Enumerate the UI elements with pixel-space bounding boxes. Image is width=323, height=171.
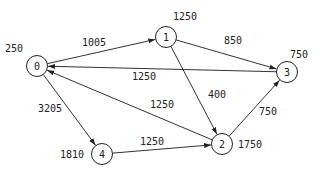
node-id-label: 1 [163, 32, 169, 43]
edge-weight-label: 850 [224, 35, 242, 46]
node-value-label: 1250 [173, 11, 197, 22]
edge-3-to-0 [48, 66, 277, 71]
node-id-label: 3 [284, 67, 290, 78]
edge-weight-label: 1250 [150, 99, 174, 110]
node-id-label: 0 [34, 61, 40, 72]
edge-weight-label: 400 [208, 89, 226, 100]
node-id-label: 4 [99, 149, 105, 160]
graph-node-3: 3 [277, 62, 298, 83]
graph-node-4: 4 [92, 144, 113, 165]
node-value-label: 250 [5, 43, 23, 54]
edge-weight-label: 1250 [140, 136, 164, 147]
edge-weight-label: 1005 [82, 37, 106, 48]
edge-labels-layer: 10058501250400125032051250750 [38, 35, 277, 147]
node-value-label: 1750 [238, 139, 262, 150]
edge-2-to-0 [47, 70, 212, 140]
node-value-label: 1810 [60, 149, 84, 160]
edge-weight-label: 1250 [132, 71, 156, 82]
graph-diagram: 10058501250400125032051250750 01234 2501… [0, 0, 323, 171]
edge-weight-label: 3205 [38, 103, 62, 114]
graph-node-0: 0 [27, 56, 48, 77]
graph-node-1: 1 [156, 27, 177, 48]
node-id-label: 2 [219, 139, 225, 150]
node-value-label: 750 [290, 49, 308, 60]
graph-node-2: 2 [212, 134, 233, 155]
edge-weight-label: 750 [259, 106, 277, 117]
